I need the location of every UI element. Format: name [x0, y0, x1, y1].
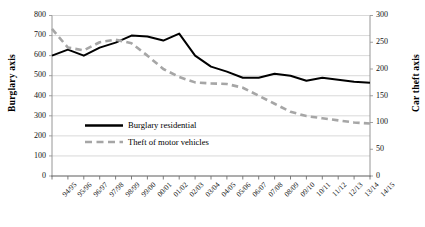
legend-swatches: [85, 126, 123, 143]
series-line: [52, 29, 370, 124]
x-axis-tick-marks: [52, 176, 370, 180]
gridlines: [52, 16, 370, 177]
right-axis-tick-marks: [370, 16, 373, 177]
data-series-layer: [52, 29, 370, 124]
chart-container: Burglary axis Car theft axis 01002003004…: [0, 0, 425, 227]
legend-label: Burglary residential: [128, 120, 196, 130]
plot-area: [0, 0, 425, 227]
legend-label: Theft of motor vehicles: [128, 137, 209, 147]
